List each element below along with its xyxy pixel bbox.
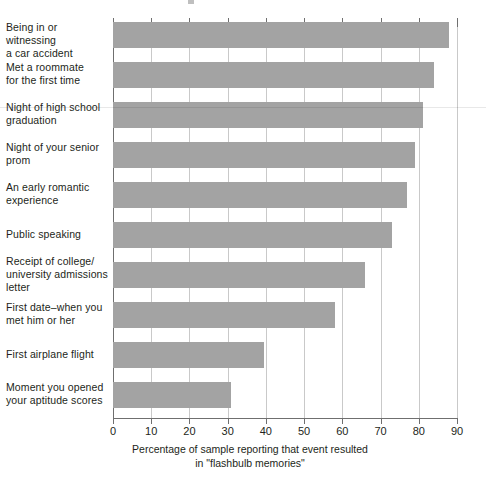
category-label: First airplane flight bbox=[6, 348, 110, 361]
category-label: Moment you openedyour aptitude scores bbox=[6, 381, 110, 407]
bar bbox=[113, 302, 335, 328]
x-tick-label-90: 90 bbox=[442, 425, 472, 437]
bottom-tick-70 bbox=[381, 419, 382, 424]
bar bbox=[113, 102, 423, 128]
top-tick-90 bbox=[457, 18, 458, 27]
category-label-line: First date–when you bbox=[6, 301, 110, 314]
x-axis-caption-line-2: in "flashbulb memories" bbox=[60, 457, 440, 471]
bar bbox=[113, 62, 434, 88]
category-label-line: Met a roommate bbox=[6, 61, 110, 74]
category-label-line: a car accident bbox=[6, 47, 110, 60]
bottom-tick-40 bbox=[266, 419, 267, 424]
category-label: Met a roommatefor the first time bbox=[6, 61, 110, 87]
top-edge-artifact bbox=[188, 0, 194, 4]
bar bbox=[113, 342, 264, 368]
bar bbox=[113, 142, 415, 168]
category-label: First date–when youmet him or her bbox=[6, 301, 110, 327]
category-label-line: met him or her bbox=[6, 314, 110, 327]
bottom-tick-0 bbox=[113, 419, 114, 424]
x-tick-label-80: 80 bbox=[404, 425, 434, 437]
category-label-line: Receipt of college/ bbox=[6, 255, 110, 268]
x-tick-label-10: 10 bbox=[136, 425, 166, 437]
bottom-tick-60 bbox=[342, 419, 343, 424]
bottom-tick-20 bbox=[189, 419, 190, 424]
category-label-line: your aptitude scores bbox=[6, 394, 110, 407]
bar bbox=[113, 382, 231, 408]
category-label: Public speaking bbox=[6, 228, 110, 241]
bottom-tick-10 bbox=[151, 419, 152, 424]
bar bbox=[113, 222, 392, 248]
x-tick-label-50: 50 bbox=[289, 425, 319, 437]
category-label: An early romanticexperience bbox=[6, 181, 110, 207]
bottom-tick-30 bbox=[228, 419, 229, 424]
plot-area bbox=[113, 18, 457, 418]
category-label: Receipt of college/university admissions… bbox=[6, 255, 110, 294]
x-tick-label-0: 0 bbox=[98, 425, 128, 437]
flashbulb-memories-bar-chart: 0102030405060708090Being in or witnessin… bbox=[0, 0, 486, 478]
category-label-line: for the first time bbox=[6, 74, 110, 87]
x-tick-label-30: 30 bbox=[213, 425, 243, 437]
category-label: Being in or witnessinga car accident bbox=[6, 21, 110, 60]
bar bbox=[113, 22, 449, 48]
x-tick-label-60: 60 bbox=[327, 425, 357, 437]
x-tick-label-20: 20 bbox=[174, 425, 204, 437]
category-label: Night of your seniorprom bbox=[6, 141, 110, 167]
bottom-tick-50 bbox=[304, 419, 305, 424]
category-label-line: letter bbox=[6, 281, 110, 294]
bottom-tick-80 bbox=[419, 419, 420, 424]
x-tick-label-40: 40 bbox=[251, 425, 281, 437]
category-label-line: experience bbox=[6, 194, 110, 207]
category-label-line: Moment you opened bbox=[6, 381, 110, 394]
category-label: Night of high schoolgraduation bbox=[6, 101, 110, 127]
category-label-line: An early romantic bbox=[6, 181, 110, 194]
category-label-line: graduation bbox=[6, 114, 110, 127]
category-label-line: Public speaking bbox=[6, 228, 110, 241]
bar bbox=[113, 262, 365, 288]
x-axis-caption: Percentage of sample reporting that even… bbox=[60, 443, 440, 470]
category-label-line: Being in or witnessing bbox=[6, 21, 110, 47]
bar bbox=[113, 182, 407, 208]
category-label-line: prom bbox=[6, 154, 110, 167]
x-axis-line bbox=[113, 418, 458, 419]
bottom-tick-90 bbox=[457, 419, 458, 424]
gridline-90 bbox=[457, 18, 458, 418]
category-label-line: Night of your senior bbox=[6, 141, 110, 154]
category-label-line: First airplane flight bbox=[6, 348, 110, 361]
category-label-line: Night of high school bbox=[6, 101, 110, 114]
category-label-line: university admissions bbox=[6, 268, 110, 281]
x-tick-label-70: 70 bbox=[366, 425, 396, 437]
x-axis-caption-line-1: Percentage of sample reporting that even… bbox=[60, 443, 440, 457]
